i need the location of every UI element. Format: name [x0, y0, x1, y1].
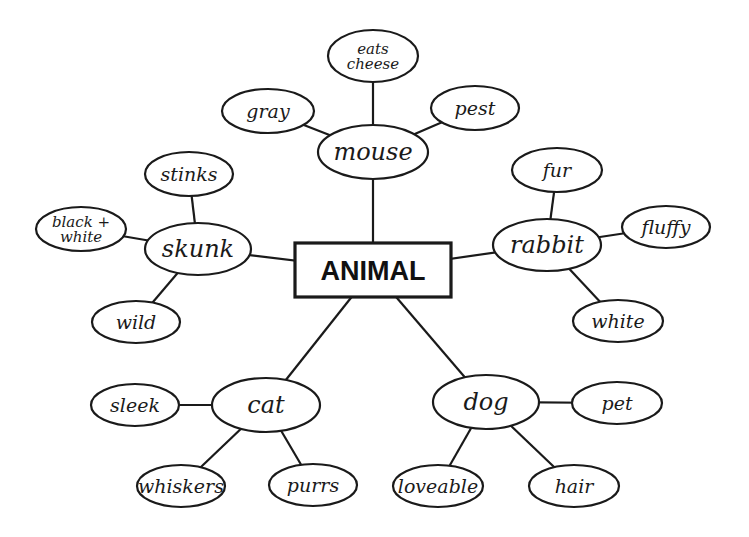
category-node-skunk: skunk — [145, 223, 251, 275]
attribute-node-fur: fur — [512, 148, 602, 192]
node-label: stinks — [161, 163, 218, 185]
node-label: sleek — [110, 394, 160, 416]
attribute-node-white: white — [573, 300, 663, 342]
node-label-line: white — [60, 228, 102, 246]
root-label: ANIMAL — [321, 256, 426, 286]
attribute-node-pet: pet — [572, 382, 662, 424]
attribute-node-black-white: black +white — [36, 207, 126, 251]
category-node-mouse: mouse — [318, 125, 428, 179]
node-label: fluffy — [639, 216, 690, 238]
node-label: pet — [601, 392, 632, 414]
node-label: fur — [541, 159, 573, 181]
node-label: rabbit — [510, 231, 584, 259]
attribute-node-whiskers: whiskers — [137, 465, 225, 507]
category-node-dog: dog — [433, 375, 539, 429]
concept-map: mouseeatscheesegraypestskunkstinksblack … — [0, 0, 749, 537]
attribute-node-purrs: purrs — [269, 464, 357, 506]
node-label: hair — [555, 475, 596, 497]
category-node-cat: cat — [212, 378, 320, 432]
root-node: ANIMAL — [295, 243, 451, 297]
node-label: whiskers — [138, 475, 224, 497]
attribute-node-hair: hair — [529, 465, 619, 507]
attribute-node-wild: wild — [92, 301, 180, 343]
node-label: white — [591, 310, 644, 332]
node-label: wild — [116, 311, 157, 333]
attribute-node-pest: pest — [431, 86, 519, 130]
attribute-node-sleek: sleek — [91, 384, 179, 426]
attribute-node-eats-cheese: eatscheese — [328, 30, 418, 82]
attribute-node-loveable: loveable — [393, 465, 483, 507]
node-label: skunk — [162, 235, 234, 263]
node-label: cat — [247, 391, 285, 419]
category-node-rabbit: rabbit — [493, 219, 601, 271]
attribute-node-gray: gray — [222, 89, 314, 133]
attribute-node-stinks: stinks — [145, 152, 233, 196]
node-label: purrs — [287, 474, 340, 496]
node-label: dog — [463, 388, 508, 416]
node-label-line: cheese — [347, 55, 400, 73]
node-label: gray — [246, 100, 290, 122]
node-label: loveable — [398, 475, 478, 497]
attribute-node-fluffy: fluffy — [622, 206, 710, 248]
node-label: mouse — [333, 138, 412, 166]
node-label: pest — [455, 97, 496, 119]
